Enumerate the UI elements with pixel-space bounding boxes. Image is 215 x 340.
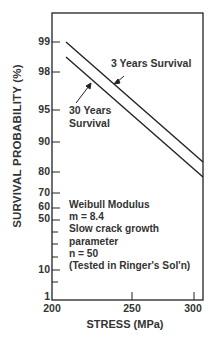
series-30-years-label-line2: Survival (69, 117, 111, 130)
x-tick-300: 300 (178, 302, 208, 314)
series-3-years-label: 3 Years Survival (111, 57, 191, 70)
x-tick-250: 250 (117, 302, 147, 314)
note-m-value: m = 8.4 (69, 211, 190, 223)
y-axis-label: SURVIVAL PROBABILITY (%) (11, 51, 23, 241)
series-30-years-label: 30 Years Survival (69, 104, 111, 129)
series-30-years-label-line1: 30 Years (69, 104, 111, 117)
y-tick-70: 70 (20, 186, 50, 198)
parameters-note: Weibull Modulus m = 8.4 Slow crack growt… (69, 199, 190, 272)
y-tick-80: 80 (20, 165, 50, 177)
y-tick-50: 50 (20, 212, 50, 224)
note-test-condition: (Tested in Ringer's Sol'n) (69, 260, 190, 272)
note-n-value: n = 50 (69, 248, 190, 260)
note-parameter: parameter (69, 236, 190, 248)
y-tick-60: 60 (20, 200, 50, 212)
y-ticks (52, 42, 60, 282)
y-tick-90: 90 (20, 135, 50, 147)
y-tick-10: 10 (20, 263, 50, 275)
note-weibull-modulus: Weibull Modulus (69, 199, 190, 211)
y-tick-95: 95 (20, 103, 50, 115)
y-tick-99: 99 (20, 35, 50, 47)
x-tick-200: 200 (37, 302, 67, 314)
y-tick-98: 98 (20, 65, 50, 77)
x-ticks (132, 292, 194, 300)
note-slow-crack: Slow crack growth (69, 223, 190, 235)
annotation-arrows (76, 76, 124, 103)
x-axis-label: STRESS (MPa) (60, 318, 190, 330)
y-tick-1: 1 (20, 290, 50, 302)
